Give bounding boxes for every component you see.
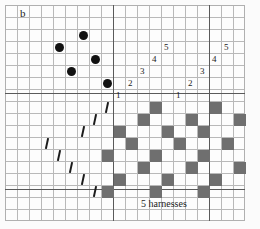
drawdown-cell <box>198 126 210 138</box>
threading-number: 3 <box>140 67 145 76</box>
drawdown-cell <box>114 126 126 138</box>
panel-label: b <box>20 8 26 19</box>
drawdown-cell <box>174 138 186 150</box>
threading-number: 5 <box>164 43 169 52</box>
threading-number: 1 <box>176 91 181 100</box>
tieup-dot <box>103 79 112 88</box>
weaving-draft-figure: 1234512345 b 5 harnesses <box>0 0 260 229</box>
drawdown-cell <box>162 174 174 186</box>
drawdown-cell <box>102 150 114 162</box>
drawdown-cell <box>234 114 246 126</box>
tieup-dot <box>55 43 64 52</box>
threading-number: 1 <box>116 91 121 100</box>
drawdown-cell <box>186 114 198 126</box>
threading-number: 2 <box>188 79 193 88</box>
drawdown-cell <box>198 150 210 162</box>
drawdown-cell <box>138 162 150 174</box>
drawdown-cell <box>150 150 162 162</box>
threading-number: 5 <box>224 43 229 52</box>
drawdown-cell <box>150 186 162 198</box>
figure-caption: 5 harnesses <box>141 199 187 209</box>
threading-number: 4 <box>152 55 157 64</box>
tieup-dot <box>91 55 100 64</box>
drawdown-cell <box>138 114 150 126</box>
drawdown-cell <box>126 138 138 150</box>
drawdown-cell <box>102 186 114 198</box>
threading-number: 2 <box>128 79 133 88</box>
drawdown-cell <box>210 102 222 114</box>
drawdown-cell <box>186 162 198 174</box>
tieup-dot <box>67 67 76 76</box>
tieup-dot <box>79 31 88 40</box>
drawdown-cell <box>210 174 222 186</box>
threading-number: 4 <box>212 55 217 64</box>
drawdown-cell <box>234 162 246 174</box>
drawdown-cell <box>222 138 234 150</box>
drawdown-cell <box>114 174 126 186</box>
drawdown-cell <box>198 186 210 198</box>
drawdown-cell <box>162 126 174 138</box>
drawdown-cell <box>150 102 162 114</box>
threading-number: 3 <box>200 67 205 76</box>
